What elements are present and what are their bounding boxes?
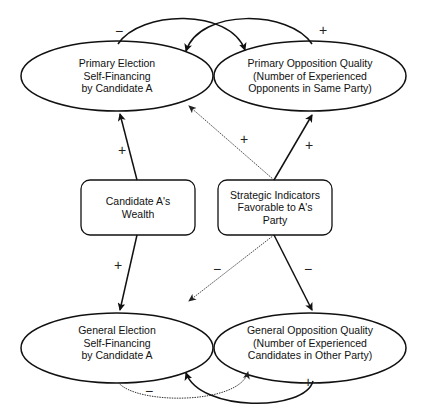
label-line: General Election (78, 324, 156, 337)
label-line: Wealth (122, 208, 155, 221)
edge-wealth-to-general-self (120, 235, 137, 310)
strategic-indicators-label: Strategic Indicators Favorable to A's Pa… (218, 180, 332, 235)
general-self-financing-label: General Election Self-Financing by Candi… (37, 323, 197, 363)
label-line: by Candidate A (81, 349, 152, 362)
edge-strategic-to-primary-self (189, 106, 274, 180)
sign-strategic-to-general-self: − (210, 262, 224, 276)
causal-loop-diagram: Primary Election Self-Financing by Candi… (0, 0, 428, 415)
label-line: Primary Opposition Quality (248, 57, 373, 70)
label-line: Candidates in Other Party) (248, 349, 372, 362)
label-line: Self-Financing (83, 337, 150, 350)
general-opposition-quality-label: General Opposition Quality (Number of Ex… (225, 323, 395, 363)
label-line: Favorable to A's (238, 201, 313, 214)
sign-top-loop-plus: + (316, 23, 330, 37)
sign-wealth-to-general: + (111, 258, 125, 272)
sign-strategic-to-primary-self: + (237, 132, 251, 146)
label-line: by Candidate A (81, 82, 152, 95)
sign-strategic-to-primary-opp: + (302, 138, 316, 152)
sign-wealth-to-primary: + (115, 143, 129, 157)
sign-bottom-loop-plus: + (301, 375, 315, 389)
sign-strategic-to-general-opp: − (301, 262, 315, 276)
label-line: Primary Election (79, 57, 155, 70)
label-line: General Opposition Quality (247, 324, 373, 337)
candidate-wealth-label: Candidate A's Wealth (81, 180, 195, 235)
label-line: Self-Financing (83, 70, 150, 83)
label-line: (Number of Experienced (253, 337, 367, 350)
label-line: Party (263, 214, 288, 227)
label-line: Candidate A's (106, 195, 170, 208)
label-line: Opponents in Same Party) (248, 82, 372, 95)
primary-self-financing-label: Primary Election Self-Financing by Candi… (37, 56, 197, 96)
primary-opposition-quality-label: Primary Opposition Quality (Number of Ex… (225, 56, 395, 96)
label-line: (Number of Experienced (253, 70, 367, 83)
sign-top-loop-minus: − (112, 24, 126, 38)
edge-strategic-to-general-self (189, 235, 274, 301)
sign-bottom-loop-minus: − (142, 384, 156, 398)
label-line: Strategic Indicators (230, 189, 320, 202)
